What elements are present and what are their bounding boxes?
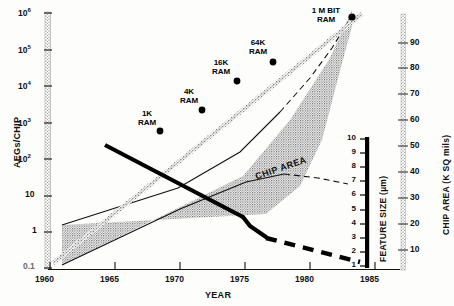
x-axis-title: YEAR	[205, 290, 231, 300]
right-tick-20: 20	[410, 219, 419, 228]
y-tick-1: 1	[32, 226, 37, 235]
right-tick-90: 90	[410, 38, 419, 47]
label-1m-bit-ram: 1 M BIT RAM	[300, 7, 352, 24]
fs-tick-8: 8	[345, 162, 356, 170]
y-right-axis	[398, 14, 408, 270]
label-64k-ram: 64K RAM	[240, 39, 276, 56]
right-tick-30: 30	[410, 193, 419, 202]
y-tick-0-1: 0.1	[23, 262, 35, 271]
fs-tick-5: 5	[345, 205, 356, 213]
right-tick-10: 10	[410, 245, 419, 254]
x-tick-1980: 1980	[295, 275, 314, 284]
right-tick-40: 40	[410, 167, 419, 176]
fs-tick-4: 4	[345, 219, 356, 227]
feature-size-axis	[360, 137, 369, 268]
fs-tick-7: 7	[345, 176, 356, 184]
point-16k-ram	[234, 78, 241, 85]
x-tick-1970: 1970	[165, 275, 184, 284]
point-4k-ram	[199, 107, 206, 114]
right-tick-50: 50	[410, 141, 419, 150]
y-right-axis-title: CHIP AREA (K SQ mils)	[441, 135, 451, 235]
x-tick-1975: 1975	[230, 275, 249, 284]
right-tick-80: 80	[410, 63, 419, 72]
fs-tick-6: 6	[345, 190, 356, 198]
y-tick-1e5: 105	[18, 44, 31, 54]
x-tick-1985: 1985	[360, 275, 379, 284]
right-tick-60: 60	[410, 115, 419, 124]
label-1k-ram: 1K RAM	[130, 110, 164, 127]
y-left-axis	[44, 12, 52, 269]
fs-tick-3: 3	[345, 233, 356, 241]
fs-tick-1: 1	[345, 261, 356, 269]
y-tick-10: 10	[25, 190, 34, 199]
right-tick-70: 70	[410, 89, 419, 98]
point-1k-ram	[157, 128, 164, 135]
fs-tick-9: 9	[345, 148, 356, 156]
label-16k-ram: 16K RAM	[203, 59, 239, 76]
x-tick-1960: 1960	[35, 275, 54, 284]
y-tick-1e6: 106	[18, 7, 31, 17]
feature-size-axis-title: FEATURE SIZE (µm)	[378, 176, 388, 262]
y-left-axis-title: AEGs/CHIP	[12, 117, 22, 168]
semiconductor-trend-chart: 106 105 104 103 102 10 1 0.1 AEGs/CHIP 1…	[0, 0, 454, 306]
point-64k-ram	[270, 59, 277, 66]
fs-tick-2: 2	[345, 247, 356, 255]
label-4k-ram: 4K RAM	[172, 88, 206, 105]
x-tick-1965: 1965	[100, 275, 119, 284]
fs-tick-10: 10	[345, 134, 356, 142]
y-tick-1e4: 104	[18, 80, 31, 90]
